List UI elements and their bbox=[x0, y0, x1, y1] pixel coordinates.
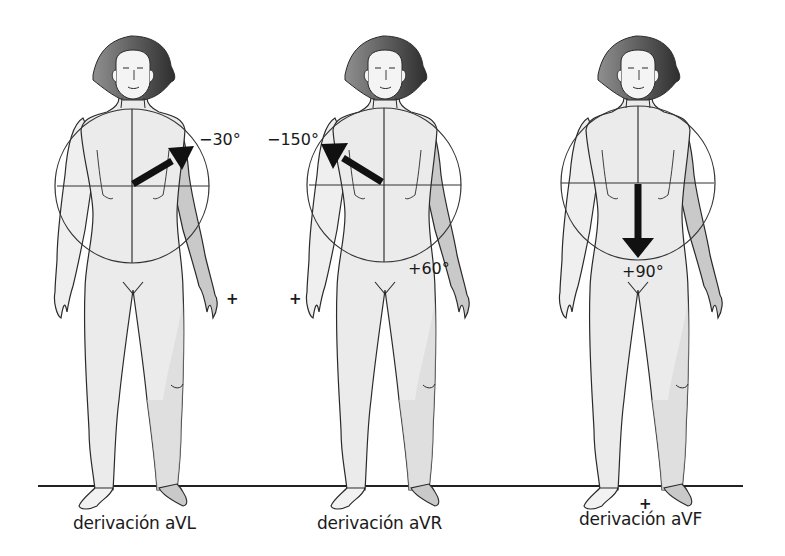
lead-label-avr: derivación aVR bbox=[317, 513, 442, 533]
lead-label-avl: derivación aVL bbox=[73, 513, 196, 533]
angle-label-plus60: +60° bbox=[408, 259, 450, 278]
figure-avl bbox=[54, 36, 217, 509]
angle-label-avl: −30° bbox=[199, 130, 241, 149]
angle-label-avf: +90° bbox=[622, 262, 664, 281]
angle-label-avr: −150° bbox=[267, 130, 319, 149]
plus-sign-avr: + bbox=[289, 290, 302, 308]
hexaxial-lead-diagram bbox=[0, 0, 785, 556]
lead-label-avf: derivación aVF bbox=[579, 509, 702, 529]
plus-sign-avl: + bbox=[226, 290, 239, 308]
